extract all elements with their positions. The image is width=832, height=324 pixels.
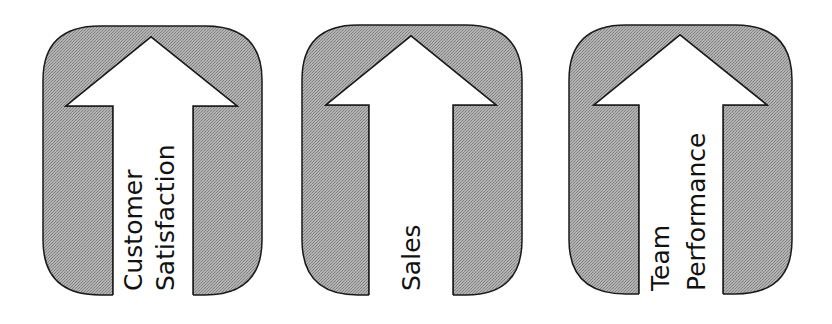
panel-label-line-1: Team — [646, 225, 675, 292]
panel-label-line-1: Sales — [397, 224, 426, 291]
diagram-canvas: Customer Satisfaction Sales Team Perform… — [0, 0, 832, 324]
panel-team-performance: Team Performance — [569, 25, 792, 295]
panel-label-line-2: Satisfaction — [151, 144, 180, 291]
panel-customer-satisfaction: Customer Satisfaction — [43, 26, 262, 296]
panel-sales: Sales — [302, 25, 522, 296]
panel-label-line-2: Performance — [682, 133, 711, 291]
panel-label-line-1: Customer — [119, 169, 148, 291]
